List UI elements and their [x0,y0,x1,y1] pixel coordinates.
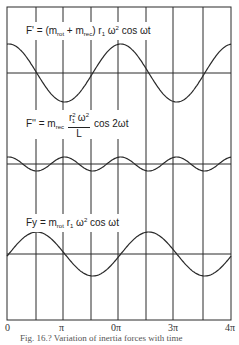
tick-label-0: 0 [5,322,10,333]
tick-label-0pi: 0π [111,322,121,333]
tick-label-4pi: 4π [225,322,235,333]
tick-label-pi: π [59,322,64,333]
primary-force-equation: F' = (mrot + mrec) r1 ω2 cos ωt [25,22,152,40]
figure-caption: Fig. 16.? Variation of inertia forces wi… [20,333,183,343]
fraction: r21 ω2L [68,110,90,139]
vertical-force-equation: Fy = mrot r1 ω2 cos ωt [25,214,120,232]
secondary-force-equation: F'' = mrecr21 ω2Lcos 2ωt [25,110,129,139]
tick-label-3pi: 3π [168,322,178,333]
